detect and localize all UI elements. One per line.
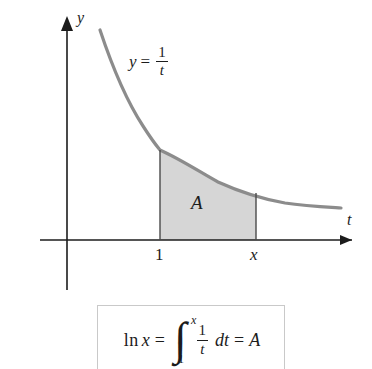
formula-integral: x ∫ 1	[174, 314, 187, 366]
formula-result: A	[249, 330, 260, 351]
area-label-A: A	[191, 193, 203, 212]
formula-argument: x	[142, 330, 150, 351]
figure-root: y t 1 x A y = 1 t ln x = x ∫ 1	[0, 0, 372, 369]
t-axis-label: t	[347, 212, 351, 228]
formula-equals-first: =	[155, 330, 165, 351]
formula-differential: dt	[215, 330, 229, 351]
formula-integrand-denominator: t	[198, 342, 206, 357]
formula-integrand-numerator: 1	[197, 323, 209, 338]
curve-eq-numerator: 1	[156, 45, 168, 60]
t-axis-arrowhead	[340, 235, 352, 245]
curve-equation-label: y = 1 t	[129, 45, 168, 79]
formula-expression: ln x = x ∫ 1 1 t dt = A	[124, 314, 260, 366]
tick-label-x: x	[250, 246, 258, 263]
formula-integral-upper-limit: x	[191, 313, 196, 328]
shaded-area-region	[160, 150, 256, 240]
formula-inner: ln x = x ∫ 1 1 t dt = A	[98, 306, 285, 369]
y-axis-arrowhead	[61, 16, 73, 31]
formula-box: ln x = x ∫ 1 1 t dt = A	[97, 305, 285, 369]
curve-eq-fraction: 1 t	[156, 45, 168, 79]
formula-ln: ln	[124, 330, 139, 351]
tick-label-1: 1	[155, 246, 164, 263]
curve-eq-denominator: t	[158, 63, 166, 78]
formula-integral-lower-limit: 1	[178, 352, 184, 367]
formula-integrand-fraction: 1 t	[197, 323, 209, 357]
formula-equals-second: =	[234, 330, 244, 351]
y-axis-label: y	[77, 10, 84, 26]
curve-eq-lhs: y	[129, 52, 137, 72]
curve-eq-operator: =	[141, 52, 151, 72]
